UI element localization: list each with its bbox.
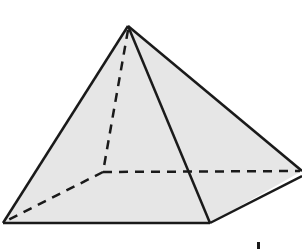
- stray-mark: [257, 242, 260, 249]
- pyramid-diagram: [0, 0, 302, 249]
- pyramid-fill: [3, 26, 302, 223]
